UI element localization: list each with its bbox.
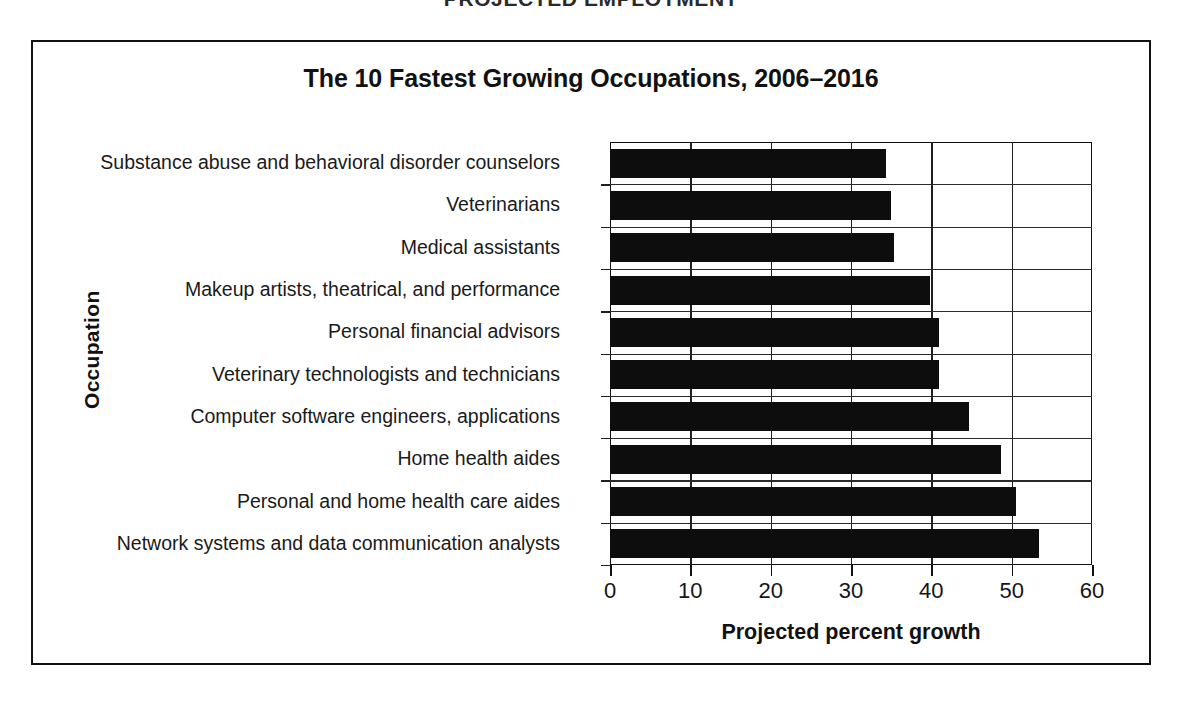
bar [610,276,930,305]
horizontal-gridline [610,311,1092,312]
bar [610,360,939,389]
bar-row [610,276,1092,305]
x-axis-tick-label: 30 [821,578,881,604]
category-label: Computer software engineers, application… [40,407,560,427]
x-axis-tick-label: 60 [1062,578,1122,604]
x-axis-tick [931,565,933,576]
bar-row [610,191,1092,220]
y-axis-tick [601,184,610,185]
y-axis-tick [601,523,610,524]
horizontal-gridline [610,269,1092,270]
bar [610,318,939,347]
bar [610,445,1001,474]
plot-area: 0102030405060 [610,142,1092,565]
category-label: Substance abuse and behavioral disorder … [40,153,560,173]
horizontal-gridline [610,396,1092,397]
category-label: Personal financial advisors [40,322,560,342]
bar-row [610,233,1092,262]
y-axis-tick [601,354,610,355]
y-axis-tick [601,269,610,270]
bar-row [610,529,1092,558]
category-label: Network systems and data communication a… [40,534,560,554]
x-axis-title: Projected percent growth [610,620,1092,645]
x-axis-tick-label: 40 [901,578,961,604]
category-label: Home health aides [40,449,560,469]
bar-row [610,445,1092,474]
bar [610,487,1016,516]
y-axis-tick [601,311,610,312]
bar [610,529,1039,558]
chart-title: The 10 Fastest Growing Occupations, 2006… [33,64,1149,93]
x-axis-tick [690,565,692,576]
horizontal-gridline [610,227,1092,228]
category-label: Makeup artists, theatrical, and performa… [40,280,560,300]
y-axis-tick [601,565,610,566]
y-axis-tick [601,438,610,439]
y-axis-tick [601,480,610,481]
bar-row [610,402,1092,431]
x-axis-tick [1092,565,1094,576]
x-axis-tick [771,565,773,576]
y-axis-tick [601,227,610,228]
y-axis-tick [601,396,610,397]
figure-frame: The 10 Fastest Growing Occupations, 2006… [31,40,1151,665]
category-label: Personal and home health care aides [40,492,560,512]
x-axis-tick [610,565,612,576]
x-axis-tick-label: 0 [580,578,640,604]
horizontal-gridline [610,480,1092,481]
x-axis-tick-label: 20 [741,578,801,604]
category-label: Veterinarians [40,195,560,215]
x-axis-tick-label: 50 [982,578,1042,604]
category-label: Veterinary technologists and technicians [40,365,560,385]
x-axis-tick [851,565,853,576]
bar-row [610,149,1092,178]
x-axis-tick [1012,565,1014,576]
horizontal-gridline [610,523,1092,524]
page-header-title: PROJECTED EMPLOYMENT [0,0,1182,11]
horizontal-gridline [610,354,1092,355]
bar-row [610,360,1092,389]
bar [610,402,969,431]
bar [610,233,894,262]
bar [610,149,886,178]
x-axis-tick-label: 10 [660,578,720,604]
bar-row [610,487,1092,516]
horizontal-gridline [610,184,1092,185]
category-label: Medical assistants [40,238,560,258]
bar [610,191,891,220]
bar-row [610,318,1092,347]
horizontal-gridline [610,438,1092,439]
